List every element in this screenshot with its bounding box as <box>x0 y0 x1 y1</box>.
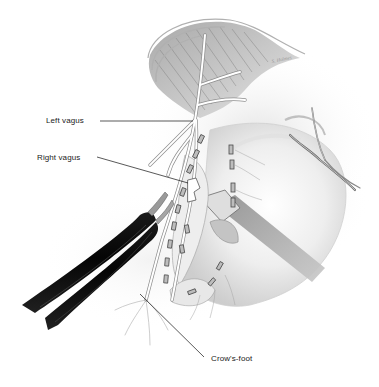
label-crows-foot: Crow's-foot <box>211 354 252 363</box>
anatomy-drawing: S. Holmes <box>0 0 379 387</box>
label-left-vagus: Left vagus <box>46 116 84 125</box>
label-right-vagus: Right vagus <box>37 153 80 162</box>
vagotomy-illustration: S. Holmes <box>0 0 379 387</box>
